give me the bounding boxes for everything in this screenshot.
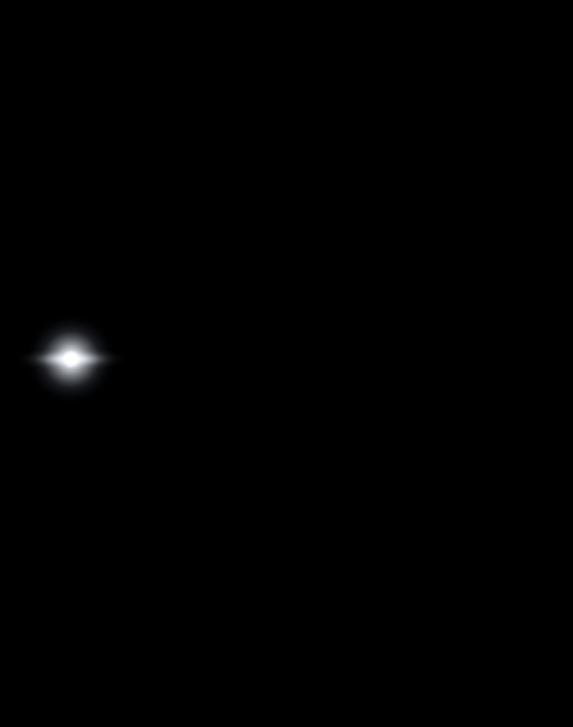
- light-cone-illustration: [0, 0, 573, 727]
- big-bang-core-center: [67, 355, 76, 364]
- cosmic-light-cone-figure: Observable Universe Light Cone Expanding…: [0, 0, 573, 727]
